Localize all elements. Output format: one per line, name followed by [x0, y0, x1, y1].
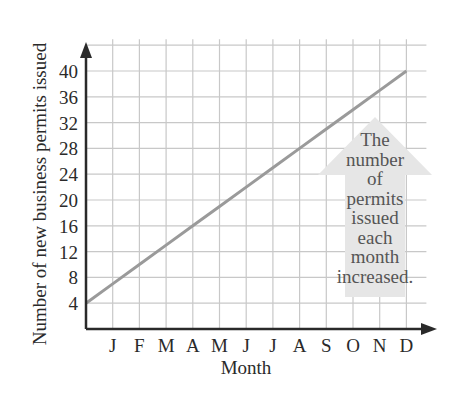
- y-tick-label: 40: [59, 61, 78, 82]
- x-tick-label: A: [293, 335, 307, 356]
- x-tick-label: M: [158, 335, 175, 356]
- annotation-text-line: increased.: [337, 266, 413, 287]
- y-tick-label: 32: [59, 113, 78, 134]
- x-tick-label: M: [211, 335, 228, 356]
- x-tick-label: J: [242, 335, 249, 356]
- up-arrow-annotation: Thenumberofpermitsissuedeachmonthincreas…: [318, 117, 432, 297]
- annotation-text-line: of: [367, 168, 384, 189]
- x-tick-label: A: [186, 335, 200, 356]
- annotation-text-line: The: [360, 129, 390, 150]
- y-tick-label: 16: [59, 216, 78, 237]
- annotation-text-line: month: [351, 246, 400, 267]
- y-tick-label: 28: [59, 138, 78, 159]
- x-tick-labels: JFMAMJJASOND: [109, 335, 413, 356]
- y-tick-label: 12: [59, 242, 78, 263]
- annotation-text-line: issued: [351, 207, 399, 228]
- y-tick-label: 8: [69, 267, 79, 288]
- y-tick-label: 24: [59, 164, 79, 185]
- y-tick-label: 20: [59, 190, 78, 211]
- x-tick-label: J: [109, 335, 116, 356]
- line-chart: Thenumberofpermitsissuedeachmonthincreas…: [0, 0, 461, 408]
- x-tick-label: S: [321, 335, 332, 356]
- y-axis-arrowhead-icon: [80, 42, 92, 58]
- x-axis-arrowhead-icon: [421, 323, 437, 335]
- x-axis-label: Month: [221, 357, 272, 378]
- x-tick-label: O: [346, 335, 360, 356]
- y-tick-label: 36: [59, 87, 78, 108]
- y-axis-label: Number of new business permits issued: [29, 42, 50, 345]
- x-tick-label: J: [269, 335, 276, 356]
- x-tick-label: F: [134, 335, 145, 356]
- y-tick-labels: 481216202428323640: [59, 61, 79, 314]
- x-tick-label: N: [373, 335, 387, 356]
- x-tick-label: D: [400, 335, 414, 356]
- annotation-text-line: each: [358, 227, 393, 248]
- annotation-text-line: permits: [347, 188, 404, 209]
- y-tick-label: 4: [69, 293, 79, 314]
- annotation-text-line: number: [346, 149, 405, 170]
